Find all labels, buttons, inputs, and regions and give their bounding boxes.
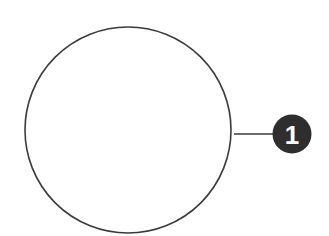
- callout-number-label: 1: [285, 120, 299, 150]
- diagram-canvas: 1: [0, 0, 329, 236]
- main-circle-shape: [25, 27, 231, 233]
- callout-badge: 1: [273, 115, 312, 154]
